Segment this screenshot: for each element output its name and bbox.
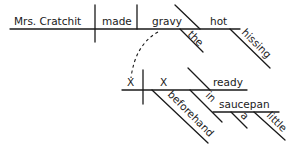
clause-subject-x: X (127, 76, 134, 88)
clause-complement-slant (188, 68, 210, 90)
sentence-diagram: Mrs. Cratchit made gravy hot the hissing… (0, 0, 299, 155)
modifier-a: a (239, 109, 252, 122)
preposition-in: in (204, 89, 219, 104)
predicate-adjective-ready: ready (213, 76, 243, 88)
modifier-hot: hot (210, 15, 227, 27)
object-word: gravy (152, 15, 182, 27)
verb-word: made (102, 15, 132, 27)
modifier-the: the (186, 28, 207, 49)
dashed-connector (131, 32, 158, 78)
modifier-little: little (265, 109, 290, 134)
prep-object-saucepan: saucepan (219, 98, 270, 110)
clause-verb-x: X (160, 76, 167, 88)
subject-word: Mrs. Cratchit (14, 15, 81, 27)
